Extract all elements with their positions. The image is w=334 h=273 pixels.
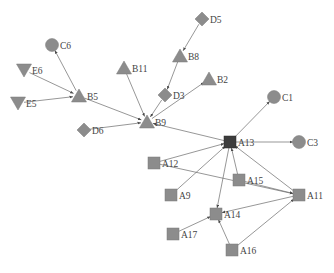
square-node-icon xyxy=(226,244,238,256)
edge-b5-to-c6 xyxy=(55,50,76,90)
edge-a16-to-a11 xyxy=(237,199,295,246)
circle-node-icon xyxy=(268,91,281,104)
node-label: A9 xyxy=(179,191,191,201)
node-label: C3 xyxy=(307,138,318,148)
node-a15[interactable]: A15 xyxy=(233,174,264,186)
node-label: A15 xyxy=(247,176,264,186)
node-b2[interactable]: B2 xyxy=(202,72,229,85)
node-c3[interactable]: C3 xyxy=(293,136,319,149)
hub-square-node-icon xyxy=(224,136,236,148)
node-a9[interactable]: A9 xyxy=(165,189,191,201)
node-c6[interactable]: C6 xyxy=(46,39,72,52)
node-b11[interactable]: B11 xyxy=(117,61,148,74)
node-c1[interactable]: C1 xyxy=(268,91,294,104)
edge-b9-to-b2 xyxy=(152,82,204,118)
square-node-icon xyxy=(165,189,177,201)
square-node-icon xyxy=(293,189,305,201)
node-label: C6 xyxy=(60,41,71,51)
node-label: A11 xyxy=(307,191,323,201)
edge-b11-to-b9 xyxy=(126,74,144,117)
node-a17[interactable]: A17 xyxy=(167,228,198,240)
node-label: B2 xyxy=(217,75,228,85)
node-label: A14 xyxy=(224,210,241,220)
edge-a9-to-a13 xyxy=(176,146,226,191)
node-label: B9 xyxy=(155,118,166,128)
node-label: D6 xyxy=(92,126,104,136)
node-label: C1 xyxy=(282,93,293,103)
node-label: E5 xyxy=(26,99,37,109)
node-label: A12 xyxy=(162,159,179,169)
node-label: D5 xyxy=(210,15,222,25)
diamond-node-icon xyxy=(195,12,209,26)
node-d5[interactable]: D5 xyxy=(195,12,222,26)
node-label: A13 xyxy=(238,138,255,148)
edge-a13-to-c1 xyxy=(234,101,270,137)
edge-e6-to-b5 xyxy=(29,73,73,94)
node-b9[interactable]: B9 xyxy=(140,115,167,128)
square-node-icon xyxy=(233,174,245,186)
node-d3[interactable]: D3 xyxy=(158,88,185,102)
square-node-icon xyxy=(167,228,179,240)
node-label: B5 xyxy=(87,92,98,102)
node-label: A16 xyxy=(240,246,257,256)
node-label: B11 xyxy=(132,64,148,74)
edge-a12-to-a11 xyxy=(160,164,293,193)
square-node-icon xyxy=(148,157,160,169)
node-a12[interactable]: A12 xyxy=(148,157,179,169)
node-label: D3 xyxy=(173,91,185,101)
triangle-node-icon xyxy=(202,72,217,85)
node-a14[interactable]: A14 xyxy=(210,208,241,220)
node-label: B8 xyxy=(188,52,199,62)
node-label: A17 xyxy=(181,230,198,240)
node-b8[interactable]: B8 xyxy=(173,49,200,62)
circle-node-icon xyxy=(46,39,59,52)
triangle-node-icon xyxy=(117,61,132,74)
triangle-node-icon xyxy=(173,49,188,62)
edge-b8-to-d3 xyxy=(167,62,178,90)
edge-layer xyxy=(24,24,294,246)
node-a11[interactable]: A11 xyxy=(293,189,323,201)
node-a13[interactable]: A13 xyxy=(224,136,255,148)
triangle-down-node-icon xyxy=(17,64,32,77)
node-layer: C6E6E5B5B11D5B8D3B2D6B9C1A13C3A12A9A15A1… xyxy=(11,12,324,256)
network-diagram: C6E6E5B5B11D5B8D3B2D6B9C1A13C3A12A9A15A1… xyxy=(0,0,334,273)
edge-a16-to-a14 xyxy=(218,220,229,245)
node-b5[interactable]: B5 xyxy=(72,89,99,102)
triangle-node-icon xyxy=(72,89,87,102)
edge-d3-to-b9 xyxy=(150,100,161,117)
circle-node-icon xyxy=(293,136,306,149)
node-d6[interactable]: D6 xyxy=(77,123,104,137)
node-a16[interactable]: A16 xyxy=(226,244,257,256)
triangle-node-icon xyxy=(140,115,155,128)
edge-a15-to-a13 xyxy=(231,148,237,174)
edge-d5-to-b8 xyxy=(183,24,199,51)
diamond-node-icon xyxy=(158,88,172,102)
node-label: E6 xyxy=(32,66,43,76)
diamond-node-icon xyxy=(77,123,91,137)
node-e5[interactable]: E5 xyxy=(11,97,37,110)
triangle-down-node-icon xyxy=(11,97,26,110)
square-node-icon xyxy=(210,208,222,220)
node-e6[interactable]: E6 xyxy=(17,64,43,77)
